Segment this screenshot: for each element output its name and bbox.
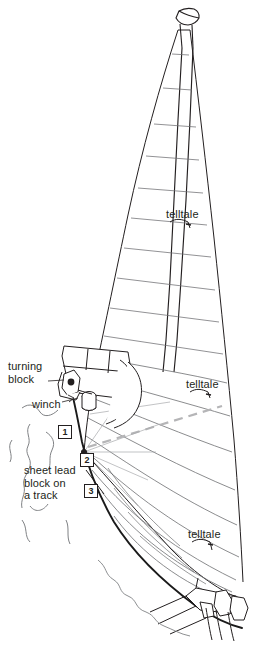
telltale-icon-middle: [190, 389, 211, 398]
seam-9: [110, 308, 219, 322]
radial-seam-6: [85, 450, 239, 557]
seam-8: [117, 278, 215, 290]
turning-block-sheave: [68, 379, 75, 386]
sail-panel-seams: [104, 54, 223, 354]
telltale-icon-lower: [192, 539, 213, 550]
seam-4: [146, 156, 199, 160]
radial-seam-8: [102, 492, 232, 592]
sail-leech: [190, 30, 243, 582]
telltale-label-lower: telltale: [188, 528, 221, 541]
stern-edge-1: [150, 596, 186, 612]
sailboat-diagram-canvas: turning block winch sheet lead block on …: [0, 0, 268, 647]
waterline-squiggle: [98, 560, 190, 636]
turning-block-arm: [58, 372, 62, 396]
turning-block-label: turning block: [8, 360, 42, 385]
wave-7: [66, 520, 70, 544]
sail-foot: [84, 452, 243, 600]
rig-illustration: [0, 0, 268, 647]
radial-seam-4: [88, 418, 235, 490]
stress-1: [84, 424, 160, 452]
waterline: [98, 560, 190, 636]
telltale-label-middle: telltale: [186, 378, 219, 391]
stern-edge-2: [158, 606, 196, 624]
winch-drum-bottom: [82, 408, 96, 411]
mainsheet-curve: [68, 378, 242, 628]
telltale-middle-tip: [206, 394, 211, 395]
winch-label: winch: [32, 398, 61, 411]
seam-5: [138, 188, 203, 193]
mast-top-left: [180, 24, 182, 48]
sheet-lead-label: sheet lead block on a track: [24, 464, 76, 502]
telltale-lower-tip: [208, 544, 213, 545]
seam-2: [163, 88, 192, 90]
wave-5: [30, 504, 48, 510]
wave-4: [10, 440, 12, 462]
sail-foot-texture: [108, 468, 206, 584]
sheet-line-heavy: [68, 378, 242, 628]
leader-turning-block: [48, 380, 64, 381]
masthead-group: [176, 8, 199, 48]
seam-1: [172, 54, 189, 55]
stern-edge-3: [170, 618, 206, 634]
callout-box-2: 2: [80, 453, 94, 467]
telltale-label-upper: telltale: [166, 208, 199, 221]
radial-seam-7: [92, 470, 236, 580]
wave-6: [22, 520, 30, 542]
stern-block-b: [230, 596, 248, 620]
callout-box-3: 3: [84, 484, 98, 498]
telltale-upper-tip: [186, 224, 191, 225]
seam-7: [124, 248, 211, 257]
callout-box-1: 1: [58, 425, 72, 439]
texture-3: [128, 512, 194, 572]
